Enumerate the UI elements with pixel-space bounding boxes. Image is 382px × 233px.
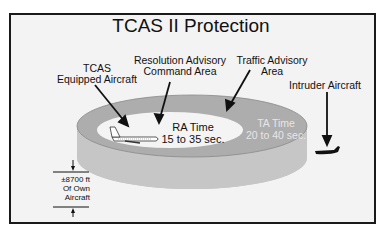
ra-time-name: RA Time — [158, 121, 228, 133]
label-ta-line2: Area — [232, 66, 312, 77]
ta-time-label: TA Time 20 to 40 sec. — [243, 117, 309, 141]
altitude-label: ±8700 ft Of Own Aircraft — [50, 175, 90, 202]
ta-time-range: 20 to 40 sec. — [243, 129, 309, 141]
label-ra-area: Resolution Advisory Command Area — [125, 55, 235, 77]
diagram-title: TCAS II Protection — [0, 15, 382, 37]
altitude-line3: Aircraft — [50, 193, 90, 202]
label-intruder: Intruder Aircraft — [275, 80, 375, 91]
ra-time-label: RA Time 15 to 35 sec. — [158, 121, 228, 145]
altitude-value: ±8700 ft — [50, 175, 90, 184]
altitude-line2: Of Own — [50, 184, 90, 193]
ra-time-range: 15 to 35 sec. — [158, 133, 228, 145]
intruder-aircraft-icon — [315, 146, 340, 154]
label-ra-line2: Command Area — [125, 66, 235, 77]
ta-time-name: TA Time — [243, 117, 309, 129]
label-ta-area: Traffic Advisory Area — [232, 55, 312, 77]
